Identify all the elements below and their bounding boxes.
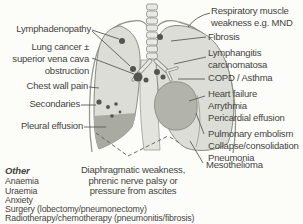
lymph-node — [161, 75, 166, 80]
lymph-node — [154, 69, 160, 75]
trachea — [147, 4, 158, 59]
lymph-node — [130, 66, 136, 72]
secondary-nodule — [96, 99, 101, 104]
label-mesothelioma: Mesothelioma — [206, 159, 298, 171]
label-pleural-effusion: Pleural effusion — [0, 120, 83, 132]
label-copd-asthma: COPD / Asthma — [208, 72, 300, 84]
label-lymphangitis-carcinomatosa: Lymphangitis carcinomatosa — [208, 47, 300, 71]
label-respiratory-muscle-weakness: Respiratory muscle weakness e.g. MND — [211, 5, 303, 29]
lymph-node — [144, 78, 149, 83]
other-heading: Other — [5, 166, 30, 176]
lymph-node — [157, 34, 163, 40]
label-secondaries: Secondaries — [0, 98, 80, 110]
label-chest-wall-pain: Chest wall pain — [0, 80, 88, 92]
footnote-radiotherapy: Radiotherapy/chemotherapy (pneumonitis/f… — [5, 214, 194, 224]
secondary-nodule — [106, 105, 110, 109]
secondary-nodule — [119, 111, 122, 114]
label-lung-cancer-svc-obstruction: Lung cancer ± superior vena cava obstruc… — [0, 41, 89, 77]
secondary-nodule — [114, 102, 118, 106]
label-heart-failure-group: Heart failure Arrythmia Pericardial effu… — [208, 88, 303, 124]
label-diaphragmatic-weakness: Diaphragmatic weakness, phrenic nerve pa… — [63, 165, 203, 197]
label-fibrosis: Fibrosis — [208, 31, 300, 43]
heart — [154, 82, 197, 130]
secondary-nodule — [110, 114, 114, 118]
lung-cancer-mass — [134, 73, 143, 82]
lung-differential-diagram: Lymphadenopathy Lung cancer ± superior v… — [0, 0, 303, 224]
pleural-effusion-region — [94, 113, 136, 149]
leader-respiratory-muscle — [188, 13, 210, 27]
label-lymphadenopathy: Lymphadenopathy — [2, 23, 91, 35]
lymph-node — [119, 38, 125, 44]
